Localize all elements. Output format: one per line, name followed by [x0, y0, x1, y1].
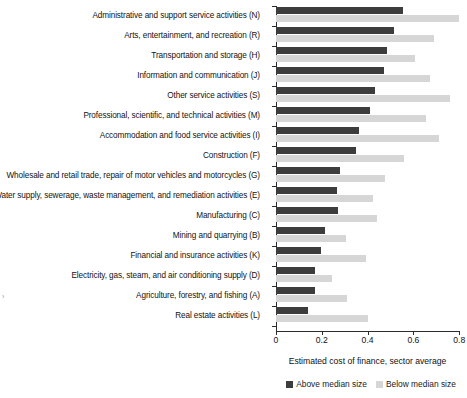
chart-legend: Above median size Below median size — [276, 378, 466, 390]
bar-group — [276, 226, 459, 246]
bar-below-median — [276, 255, 366, 262]
legend-swatch-icon-below-median — [376, 381, 383, 388]
bar-below-median — [276, 155, 404, 162]
category-tick — [272, 126, 276, 127]
chart-figure: › Administrative and support service act… — [0, 0, 467, 398]
bar-group — [276, 106, 459, 126]
category-label: Agriculture, forestry, and fishing (A) — [136, 286, 260, 306]
category-label: Electricity, gas, steam, and air conditi… — [71, 266, 260, 286]
x-axis-tick-label: 0.4 — [362, 335, 374, 345]
category-tick — [272, 306, 276, 307]
category-tick — [272, 66, 276, 67]
bar-below-median — [276, 15, 459, 22]
x-axis-tick-label: 0.6 — [407, 335, 419, 345]
category-label: Other service activities (S) — [167, 86, 260, 106]
category-tick — [272, 86, 276, 87]
category-tick — [272, 26, 276, 27]
category-axis-labels: Administrative and support service activ… — [0, 6, 268, 331]
x-axis-title: Estimated cost of finance, sector averag… — [276, 356, 459, 366]
bar-below-median — [276, 235, 346, 242]
bar-below-median — [276, 135, 439, 142]
bar-above-median — [276, 87, 375, 94]
bar-below-median — [276, 95, 450, 102]
category-label: Water supply, sewerage, waste management… — [0, 186, 260, 206]
category-label: Construction (F) — [203, 146, 260, 166]
bar-above-median — [276, 7, 403, 14]
category-label: Manufacturing (C) — [196, 206, 260, 226]
bar-below-median — [276, 275, 332, 282]
bar-group — [276, 26, 459, 46]
bar-group — [276, 166, 459, 186]
category-label: Real estate activities (L) — [175, 306, 260, 326]
bar-below-median — [276, 35, 434, 42]
bar-group — [276, 66, 459, 86]
category-tick — [272, 206, 276, 207]
category-label: Professional, scientific, and technical … — [83, 106, 260, 126]
category-tick — [272, 106, 276, 107]
bar-below-median — [276, 115, 426, 122]
category-tick — [272, 326, 276, 327]
legend-swatch-icon-above-median — [286, 381, 293, 388]
bar-above-median — [276, 287, 315, 294]
bar-group — [276, 186, 459, 206]
bar-group — [276, 206, 459, 226]
bar-rows — [276, 6, 459, 326]
category-tick — [272, 226, 276, 227]
bar-above-median — [276, 47, 387, 54]
bar-below-median — [276, 175, 385, 182]
bar-above-median — [276, 227, 325, 234]
bar-above-median — [276, 127, 359, 134]
bar-above-median — [276, 107, 370, 114]
category-label: Financial and insurance activities (K) — [130, 246, 260, 266]
bar-group — [276, 146, 459, 166]
x-axis-ticks: 00.20.40.60.8 — [276, 331, 459, 345]
bar-below-median — [276, 75, 430, 82]
category-label: Wholesale and retail trade, repair of mo… — [6, 166, 260, 186]
category-label: Administrative and support service activ… — [92, 6, 260, 26]
bar-above-median — [276, 27, 394, 34]
bar-above-median — [276, 147, 356, 154]
bar-below-median — [276, 55, 415, 62]
bar-below-median — [276, 315, 368, 322]
bar-above-median — [276, 167, 340, 174]
category-tick — [272, 186, 276, 187]
bar-above-median — [276, 247, 321, 254]
category-label: Arts, entertainment, and recreation (R) — [124, 26, 260, 46]
bar-above-median — [276, 267, 315, 274]
bar-above-median — [276, 207, 338, 214]
bar-below-median — [276, 215, 377, 222]
category-tick — [272, 6, 276, 7]
bar-below-median — [276, 295, 347, 302]
plot-area — [276, 6, 459, 331]
bar-group — [276, 266, 459, 286]
legend-item-above-median: Above median size — [286, 379, 367, 389]
legend-label-below-median: Below median size — [386, 379, 456, 389]
category-tick — [272, 286, 276, 287]
category-tick — [272, 46, 276, 47]
bar-group — [276, 246, 459, 266]
category-tick — [272, 266, 276, 267]
legend-item-below-median: Below median size — [376, 379, 456, 389]
bar-below-median — [276, 195, 373, 202]
bar-above-median — [276, 67, 384, 74]
category-label: Information and communication (J) — [137, 66, 260, 86]
bar-above-median — [276, 187, 337, 194]
category-tick — [272, 246, 276, 247]
legend-label-above-median: Above median size — [296, 379, 367, 389]
x-axis-tick-label: 0.2 — [316, 335, 328, 345]
category-tick — [272, 166, 276, 167]
x-axis-tick-label: 0.8 — [453, 335, 465, 345]
bar-group — [276, 86, 459, 106]
category-label: Mining and quarrying (B) — [173, 226, 260, 246]
bar-group — [276, 6, 459, 26]
category-label: Transportation and storage (H) — [151, 46, 260, 66]
bar-group — [276, 46, 459, 66]
category-label: Accommodation and food service activitie… — [100, 126, 260, 146]
bar-above-median — [276, 307, 308, 314]
x-axis-tick-label: 0 — [274, 335, 279, 345]
category-tick — [272, 146, 276, 147]
bar-group — [276, 286, 459, 306]
bar-group — [276, 306, 459, 326]
bar-group — [276, 126, 459, 146]
